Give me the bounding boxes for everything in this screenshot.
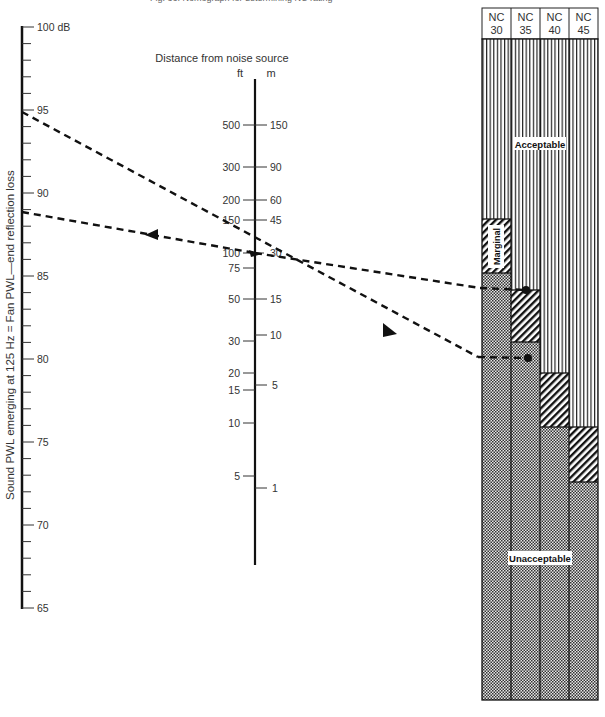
m-tick-15: 15 [270,293,282,305]
nc40-header-top: NC [547,11,563,23]
tick-label-90: 90 [37,187,49,199]
m-tick-10: 10 [270,329,282,341]
nc-rating-columns: NC 30 NC 35 NC 40 NC 45 [482,8,598,700]
figure-caption: Fig. 36: Nomograph for determining NC ra… [150,0,333,3]
nc30-header-top: NC [489,11,505,23]
m-tick-5: 5 [272,379,278,391]
distance-scale: Distance from noise source ft m 500 300 … [155,52,288,565]
example-line-1 [22,112,528,358]
acceptable-label: Acceptable [515,139,566,150]
nc30-header-bottom: 30 [490,24,502,36]
ft-tick-15: 15 [228,384,240,396]
marginal-label: Marginal [492,228,502,265]
nc45-header-top: NC [576,11,592,23]
m-tick-1: 1 [272,482,278,494]
ft-tick-300: 300 [222,161,240,173]
m-tick-45: 45 [270,214,282,226]
tick-label-80: 80 [37,353,49,365]
distance-title: Distance from noise source [155,52,288,64]
nc40-header-bottom: 40 [548,24,560,36]
m-tick-90: 90 [270,161,282,173]
nomograph-chart: 100 dB 95 90 85 80 75 70 65 Sound PWL em… [0,0,605,717]
nc45-header-bottom: 45 [577,24,589,36]
unacceptable-label: Unacceptable [509,553,571,564]
ft-unit-label: ft [237,67,243,79]
ft-tick-30: 30 [228,335,240,347]
ft-tick-20: 20 [228,367,240,379]
nc35-header-top: NC [518,11,534,23]
ft-tick-10: 10 [228,417,240,429]
tick-label-100: 100 dB [37,21,70,33]
result-dot-1 [524,354,532,362]
tick-label-85: 85 [37,270,49,282]
tick-label-95: 95 [37,104,49,116]
ft-tick-75: 75 [228,262,240,274]
tick-label-75: 75 [37,436,49,448]
left-db-axis: 100 dB 95 90 85 80 75 70 65 Sound PWL em… [4,21,70,614]
arrow-left-icon [145,229,158,240]
result-dot-2 [522,286,530,294]
m-unit-label: m [266,67,275,79]
m-tick-60: 60 [270,194,282,206]
ft-tick-200: 200 [222,194,240,206]
ft-tick-50: 50 [228,293,240,305]
tick-label-70: 70 [37,519,49,531]
tick-label-65: 65 [37,602,49,614]
arrow-right-icon [383,323,397,337]
nc35-header-bottom: 35 [519,24,531,36]
ft-tick-5: 5 [234,470,240,482]
ft-tick-500: 500 [222,119,240,131]
m-tick-150: 150 [270,119,288,131]
y-axis-label: Sound PWL emerging at 125 Hz = Fan PWL—e… [4,170,16,500]
